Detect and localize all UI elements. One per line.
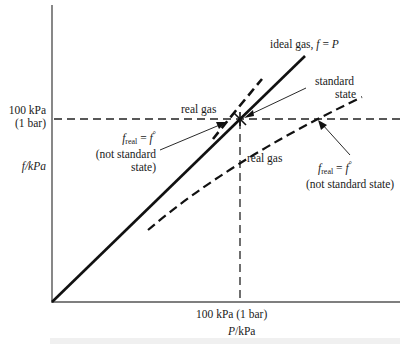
- standard-state-label: standard state: [313, 75, 356, 101]
- y-tick-line1: 100 kPa: [4, 104, 46, 117]
- freal-sup: °: [153, 130, 156, 139]
- x-axis-unit: /kPa: [235, 325, 255, 337]
- y-tick-label-100kpa: 100 kPa (1 bar): [4, 104, 46, 130]
- ideal-gas-text: ideal gas,: [270, 38, 316, 50]
- freal-left-label: freal = f° (not standard state): [64, 128, 156, 174]
- x-tick-label-100kpa: 100 kPa (1 bar): [196, 308, 267, 321]
- faded-figure-caption: [50, 338, 400, 344]
- ideal-gas-line: [52, 56, 305, 302]
- standard-line1: standard: [313, 75, 356, 88]
- real-gas-lower-label: real gas: [247, 152, 282, 165]
- real-gas-upper-curve: [213, 79, 262, 139]
- not-standard-right: (not standard state): [306, 178, 394, 191]
- standard-state-marker: [234, 112, 246, 126]
- x-axis-var: P: [228, 325, 235, 337]
- standard-line2: state: [313, 88, 356, 101]
- freal-eq: =: [137, 132, 149, 144]
- freal-sub: real: [321, 167, 333, 176]
- real-gas-upper-label: real gas: [181, 103, 216, 116]
- x-axis-label: P/kPa: [228, 325, 255, 338]
- not-standard-left-1: (not standard: [64, 148, 156, 161]
- ideal-gas-eq: =: [320, 38, 332, 50]
- y-tick-line2: (1 bar): [4, 117, 46, 130]
- freal-sup: °: [349, 160, 352, 169]
- freal-right-label: freal = f° (not standard state): [306, 158, 394, 191]
- leader-freal-right: [318, 120, 350, 155]
- ideal-gas-label: ideal gas, f = P: [270, 38, 339, 51]
- freal-sub: real: [125, 137, 137, 146]
- y-axis-label: f/kPa: [4, 160, 46, 173]
- freal-left-eq: freal = f°: [64, 128, 156, 148]
- y-axis-label-text: f/kPa: [22, 160, 46, 172]
- freal-eq: =: [333, 162, 345, 174]
- freal-right-eq: freal = f°: [306, 158, 394, 178]
- not-standard-left-2: state): [64, 161, 156, 174]
- ideal-gas-p: P: [332, 38, 339, 50]
- leader-standard-state: [244, 88, 306, 118]
